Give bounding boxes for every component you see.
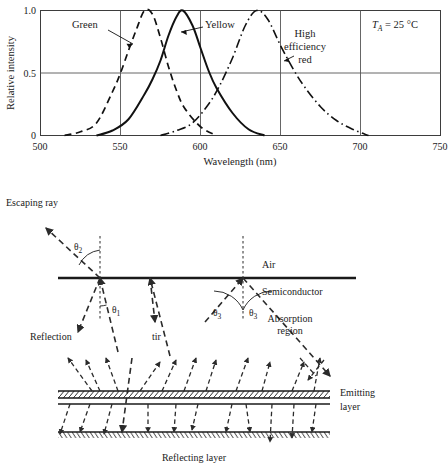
ytick-label-0-5: 0.5: [24, 68, 37, 79]
emission-rays-up: [68, 358, 320, 391]
y-axis-title: Relative intensity: [5, 35, 16, 110]
x-axis-title: Wavelength (nm): [204, 156, 277, 168]
label-escaping-ray: Escaping ray: [6, 197, 58, 208]
label-theta3-right: θ3: [249, 308, 258, 321]
label-yellow: Yellow: [205, 19, 235, 30]
theta1-arc: [100, 305, 107, 306]
xtick-label-650: 650: [273, 141, 288, 152]
label-theta1: θ1: [112, 305, 121, 318]
label-emitting-line1: Emitting: [340, 387, 375, 398]
spectra-chart: 1.0 0.5 0 500 550 600 650 700 750 Wavele…: [0, 0, 448, 178]
figure-root: 1.0 0.5 0 500 550 600 650 700 750 Wavele…: [0, 0, 448, 475]
reflection-ray: [78, 278, 100, 332]
theta3-right-subscript: 3: [254, 312, 258, 321]
label-emitting-line2: layer: [340, 401, 361, 412]
tir2-incident-ray: [205, 278, 243, 322]
label-red-line2: efficiency: [284, 41, 327, 52]
xtick-label-600: 600: [193, 141, 208, 152]
label-semiconductor: Semiconductor: [262, 286, 323, 297]
theta3-left-subscript: 3: [218, 312, 222, 321]
label-absorption-line1: Absorption: [268, 313, 313, 324]
label-theta2: θ2: [74, 242, 83, 255]
ytick-label-1: 1.0: [24, 5, 37, 16]
temperature-annotation: TA = 25 °C: [372, 19, 418, 33]
xtick-label-700: 700: [353, 141, 368, 152]
label-absorption-line2: region: [277, 325, 303, 336]
leader-yellow-arrow: [181, 30, 187, 35]
theta3-left-arc: [214, 291, 243, 310]
theta1-subscript: 1: [117, 309, 121, 318]
temperature-value: = 25 °C: [382, 19, 418, 30]
label-red-line1: High: [295, 28, 317, 39]
label-reflection: Reflection: [30, 331, 72, 342]
label-red-line3: red: [298, 54, 312, 65]
theta2-subscript: 2: [79, 246, 83, 255]
reflecting-layer: [58, 432, 330, 438]
xtick-label-550: 550: [113, 141, 128, 152]
tir-incident-ray: [150, 278, 170, 356]
label-green: Green: [72, 19, 98, 30]
incident-ray-left: [100, 278, 118, 352]
emitting-layer: [58, 391, 330, 404]
label-theta3-left: θ3: [213, 308, 222, 321]
escaping-ray: [46, 228, 100, 278]
xtick-label-500: 500: [33, 141, 48, 152]
ytick-label-0: 0: [31, 130, 36, 141]
label-air: Air: [262, 259, 276, 270]
label-tir: tir: [152, 331, 162, 342]
label-reflecting-layer: Reflecting layer: [162, 452, 227, 463]
ray-diagram: Escaping ray Reflection tir Air Semicond…: [0, 180, 448, 475]
xtick-label-750: 750: [433, 141, 448, 152]
